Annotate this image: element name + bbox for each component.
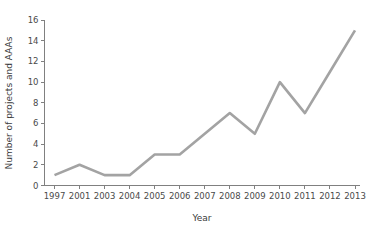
plot-area bbox=[55, 30, 356, 175]
chart-container: 0246810121416 19972001200320042005200620… bbox=[0, 0, 372, 228]
x-tick-label: 2013 bbox=[344, 191, 366, 201]
x-tick-label: 2009 bbox=[244, 191, 266, 201]
x-tick-label: 2003 bbox=[94, 191, 116, 201]
y-axis-ticks: 0246810121416 bbox=[28, 15, 45, 191]
y-tick-label: 12 bbox=[28, 56, 39, 66]
x-tick-label: 2006 bbox=[169, 191, 191, 201]
x-tick-label: 2012 bbox=[319, 191, 341, 201]
y-tick-label: 14 bbox=[28, 36, 39, 46]
y-tick-label: 8 bbox=[33, 98, 38, 108]
x-axis-title: Year bbox=[191, 213, 211, 223]
x-tick-label: 1997 bbox=[44, 191, 66, 201]
y-tick-label: 16 bbox=[28, 15, 39, 25]
x-tick-label: 2007 bbox=[194, 191, 216, 201]
y-tick-label: 2 bbox=[33, 160, 38, 170]
x-axis: 1997200120032004200520062007200820092010… bbox=[44, 186, 366, 201]
x-tick-label: 2010 bbox=[269, 191, 291, 201]
x-tick-label: 2005 bbox=[144, 191, 166, 201]
line-chart: 0246810121416 19972001200320042005200620… bbox=[0, 0, 372, 228]
y-tick-label: 10 bbox=[28, 77, 39, 87]
y-axis: 0246810121416 bbox=[28, 15, 45, 191]
x-tick-label: 2011 bbox=[294, 191, 316, 201]
data-series-line bbox=[55, 30, 356, 175]
y-tick-label: 6 bbox=[33, 118, 38, 128]
y-tick-label: 0 bbox=[33, 181, 38, 191]
x-axis-ticks: 1997200120032004200520062007200820092010… bbox=[44, 186, 366, 201]
x-tick-label: 2001 bbox=[69, 191, 91, 201]
x-tick-label: 2004 bbox=[119, 191, 141, 201]
y-axis-title: Number of projects and AAAs bbox=[4, 36, 14, 169]
y-tick-label: 4 bbox=[33, 139, 38, 149]
x-tick-label: 2008 bbox=[219, 191, 241, 201]
